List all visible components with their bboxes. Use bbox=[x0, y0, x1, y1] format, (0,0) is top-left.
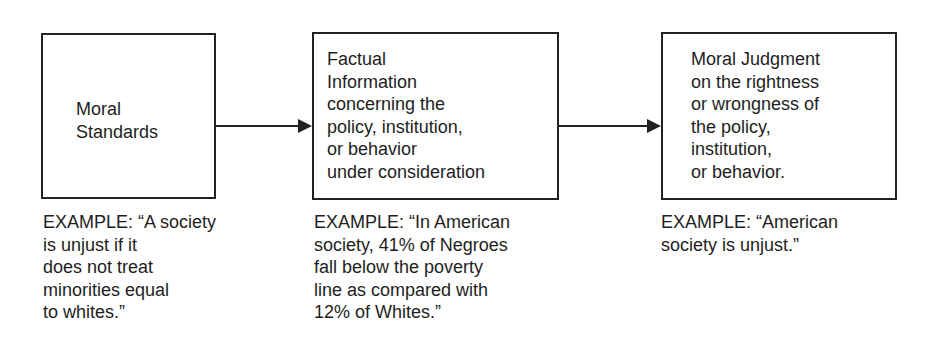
arrowhead-icon bbox=[298, 119, 312, 133]
moral-judgment-example: EXAMPLE: “American society is unjust.” bbox=[661, 211, 838, 256]
arrow-facts-to-judgment bbox=[559, 125, 659, 127]
moral-judgment-label: Moral Judgment on the rightness or wrong… bbox=[691, 48, 820, 183]
moral-standards-label: Moral Standards bbox=[76, 98, 158, 143]
factual-information-example: EXAMPLE: “In American society, 41% of Ne… bbox=[314, 211, 510, 324]
factual-information-box: Factual Information concerning the polic… bbox=[312, 32, 559, 200]
arrowhead-icon bbox=[647, 119, 661, 133]
moral-standards-box: Moral Standards bbox=[41, 33, 216, 199]
moral-judgment-box: Moral Judgment on the rightness or wrong… bbox=[661, 32, 897, 200]
arrow-standards-to-facts bbox=[216, 125, 310, 127]
factual-information-label: Factual Information concerning the polic… bbox=[327, 48, 485, 183]
moral-standards-example: EXAMPLE: “A society is unjust if it does… bbox=[43, 211, 216, 324]
